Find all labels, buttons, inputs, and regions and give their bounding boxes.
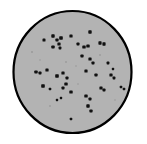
colony-dot — [66, 77, 69, 80]
agar-speck — [49, 105, 51, 107]
agar-speck — [114, 99, 116, 101]
colony-dot — [60, 97, 62, 99]
colony-dot — [123, 88, 126, 91]
colony-dot — [102, 42, 105, 45]
colony-dot — [59, 47, 62, 50]
colony-dot — [59, 36, 63, 39]
colony-dot — [39, 72, 42, 75]
agar-speck — [65, 61, 67, 63]
agar-speck — [99, 54, 101, 56]
plate-canvas — [0, 0, 147, 144]
colony-dot — [77, 43, 80, 46]
colony-dot — [84, 69, 87, 72]
colony-dot — [56, 99, 58, 101]
colony-dot — [88, 57, 91, 60]
agar-speck — [31, 51, 33, 53]
colony-dot — [49, 88, 52, 91]
colony-dot — [103, 89, 106, 92]
colony-dot — [120, 86, 123, 89]
colony-dot — [70, 118, 73, 121]
petri-dish-figure — [0, 0, 147, 144]
colony-dot — [45, 68, 48, 71]
colony-dot — [98, 41, 101, 44]
colony-dot — [86, 44, 89, 47]
colony-dot — [55, 39, 58, 42]
colony-dot — [89, 98, 92, 101]
colony-dot — [86, 104, 89, 107]
colony-dot — [51, 34, 54, 37]
colony-dot — [82, 45, 85, 48]
colony-dot — [55, 74, 59, 77]
colony-dot — [80, 55, 83, 58]
colony-dot — [57, 42, 60, 45]
colony-dot — [113, 77, 116, 80]
colony-dot — [43, 38, 46, 41]
colony-dot — [61, 71, 64, 74]
agar-speck — [77, 83, 79, 85]
colony-dot — [94, 74, 97, 77]
colony-dot — [51, 46, 54, 49]
colony-dot — [41, 84, 45, 88]
colony-dot — [69, 34, 72, 37]
agar-speck — [39, 59, 41, 61]
colony-dot — [107, 62, 110, 65]
colony-dot — [84, 94, 87, 97]
agar-speck — [75, 65, 77, 67]
colony-dot — [64, 82, 67, 85]
colony-dot — [109, 73, 112, 76]
colony-dot — [89, 110, 92, 113]
colony-dot — [92, 62, 95, 65]
colony-dot — [99, 86, 102, 89]
colony-dot — [88, 30, 91, 33]
colony-dot — [62, 87, 65, 90]
colony-dot — [112, 68, 114, 70]
colony-dot — [34, 71, 37, 74]
colony-dot — [69, 90, 72, 93]
